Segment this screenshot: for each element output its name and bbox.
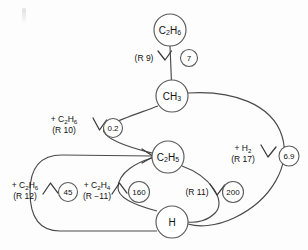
flux-marker-0-2[interactable]: 0.2: [104, 119, 123, 138]
flux-marker-7[interactable]: 7: [181, 50, 198, 67]
edge-layer: [30, 46, 284, 231]
species-node-ch3[interactable]: CH3: [156, 80, 188, 112]
species-node-c2h5[interactable]: C2H5: [152, 141, 184, 173]
flux-marker-200[interactable]: 200: [223, 182, 244, 203]
arrowhead-r9: [158, 51, 172, 60]
reaction-flux-svg: C2H6 CH3 C2H5 H 7 0.2 6.9 4: [0, 0, 308, 250]
flux-marker-6-9[interactable]: 6.9: [279, 146, 299, 166]
flux-value-160: 160: [132, 188, 146, 197]
reaction-label-r12-line1: + C2H6: [12, 180, 39, 191]
node-label-h: H: [168, 216, 175, 227]
reaction-label-r11-line1: (R 11): [186, 187, 209, 197]
reaction-label-r10: + C2H6 (R 10): [51, 114, 78, 135]
reaction-label-r9-line1: (R 9): [135, 53, 154, 63]
reaction-label-r12: + C2H6 (R 12): [12, 180, 39, 201]
flux-marker-45[interactable]: 45: [59, 183, 78, 202]
reaction-label-r11: (R 11): [186, 187, 209, 197]
reaction-label-r9: (R 9): [135, 53, 154, 63]
reaction-diagram-canvas: C2H6 CH3 C2H5 H 7 0.2 6.9 4: [0, 0, 308, 250]
flux-value-7: 7: [187, 54, 192, 63]
reaction-label-r10-line1: + C2H6: [51, 114, 78, 125]
reaction-label-r10-line2: (R 10): [52, 125, 76, 135]
arrowhead-r12: [43, 183, 58, 194]
species-node-c2h6-top[interactable]: C2H6: [154, 14, 186, 46]
reaction-label-r17-line2: (R 17): [231, 154, 255, 164]
flux-marker-160[interactable]: 160: [129, 182, 150, 203]
arrowhead-r17: [261, 145, 276, 157]
reaction-label-r12-line2: (R 12): [13, 191, 37, 201]
flux-value-200: 200: [226, 188, 240, 197]
reaction-label-rm11-line1: + C2H4: [84, 180, 111, 191]
arrowhead-layer: [43, 51, 276, 195]
reaction-label-r17: + H2 (R 17): [231, 143, 255, 164]
flux-value-0-2: 0.2: [107, 124, 119, 133]
flux-value-45: 45: [64, 188, 73, 197]
flux-value-6-9: 6.9: [283, 152, 295, 161]
reaction-label-rm11-line2: (R −11): [83, 191, 111, 201]
reaction-label-rm11: + C2H4 (R −11): [83, 180, 111, 201]
species-node-h[interactable]: H: [156, 206, 188, 238]
reaction-label-r17-line1: + H2: [235, 143, 252, 154]
